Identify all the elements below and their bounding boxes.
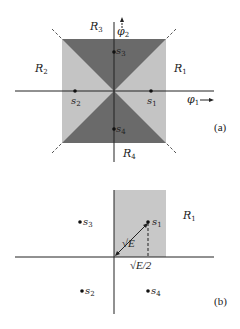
point-s3-b	[78, 220, 82, 224]
label-region-r4: R4	[122, 147, 136, 161]
boundary-diagonal-br	[166, 143, 176, 153]
label-s2-b: s2	[85, 285, 95, 298]
phi1-arrow-icon	[209, 98, 214, 102]
label-s4-b: s4	[151, 285, 161, 298]
label-sqrtE: √E	[122, 237, 135, 249]
point-s1	[149, 89, 153, 93]
panel-a: s1 s2 s3 s4 R1 R2 R3 R4 φ2 φ1 (a)	[15, 17, 227, 162]
label-axis-phi2: φ2	[117, 25, 129, 39]
label-axis-phi1: φ1	[187, 93, 199, 107]
boundary-diagonal-tr	[166, 29, 176, 39]
boundary-diagonal-tl	[52, 29, 62, 39]
label-region-r1: R1	[173, 62, 187, 76]
caption-a: (a)	[214, 121, 227, 134]
label-region-r2: R2	[34, 62, 48, 76]
point-s4-b	[146, 289, 150, 293]
label-region-r3: R3	[89, 20, 103, 34]
point-s2-b	[80, 289, 84, 293]
panel-b: s1 s2 s3 s4 R1 √E √E/2 (b)	[15, 190, 227, 314]
signal-space-diagram: s1 s2 s3 s4 R1 R2 R3 R4 φ2 φ1 (a) s1	[0, 0, 240, 329]
caption-b: (b)	[214, 295, 227, 308]
phi2-arrow-icon	[120, 17, 124, 22]
boundary-diagonal-bl	[52, 143, 62, 153]
label-sqrtE-half: √E/2	[130, 259, 152, 271]
label-region-r1-b: R1	[182, 209, 196, 223]
label-s3-b: s3	[83, 216, 93, 229]
point-s1-b	[146, 220, 150, 224]
point-s2	[73, 89, 77, 93]
